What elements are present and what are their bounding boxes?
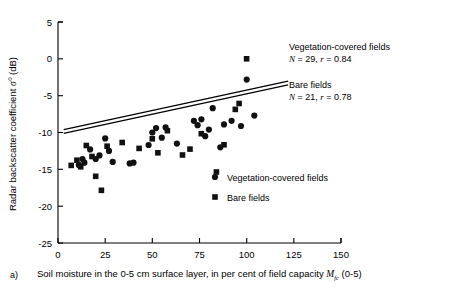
data-point-circle	[159, 135, 165, 141]
y-axis-title-after: (dB)	[7, 57, 18, 78]
data-point-square	[150, 136, 156, 142]
annotation-bare-n-value: = 21,	[295, 92, 320, 102]
legend-marker-square	[212, 194, 218, 200]
data-point-square	[187, 146, 193, 152]
annotation-bare-line2: N = 21, r = 0.78	[288, 92, 352, 102]
series-vegetation-covered-points	[76, 77, 258, 168]
annotation-bare: Bare fields N = 21, r = 0.78	[288, 80, 352, 102]
y-ticks: 5 0 -5 -10 -15 -20 -25	[38, 17, 63, 249]
data-point-square	[165, 128, 171, 134]
data-point-square	[236, 101, 242, 107]
data-point-square	[244, 56, 250, 62]
fit-line-vegetation	[64, 81, 288, 130]
y-ticklabel-0: 5	[47, 17, 52, 28]
legend-marker-circle	[212, 174, 218, 180]
data-point-square	[89, 154, 95, 160]
svg-text:Radar backscatter coefficient: Radar backscatter coefficient σ° (dB)	[7, 57, 18, 211]
data-point-square	[68, 163, 74, 169]
data-point-circle	[174, 141, 180, 147]
data-point-circle	[96, 152, 102, 158]
data-point-square	[78, 164, 84, 170]
scatter-chart: 5 0 -5 -10 -15 -20 -25 0 25 50 75 100 12…	[0, 0, 473, 300]
annotation-vegetation-r-value: = 0.84	[324, 54, 352, 64]
data-point-circle	[206, 127, 212, 133]
data-point-circle	[229, 118, 235, 124]
data-point-circle	[102, 135, 108, 141]
data-point-square	[221, 142, 227, 148]
x-ticklabel-5: 125	[286, 249, 302, 260]
x-axis-title: Soil moisture in the 0-5 cm surface laye…	[37, 268, 362, 281]
x-axis-title-after: (0-5)	[339, 268, 362, 279]
figure-container: 5 0 -5 -10 -15 -20 -25 0 25 50 75 100 12…	[0, 0, 473, 300]
panel-label: a)	[10, 270, 18, 280]
data-point-square	[99, 188, 105, 194]
x-ticklabel-2: 50	[147, 249, 158, 260]
data-point-square	[84, 143, 90, 149]
y-ticklabel-2: -5	[44, 90, 52, 101]
x-ticklabel-3: 75	[194, 249, 205, 260]
data-point-circle	[251, 113, 257, 119]
data-point-circle	[221, 121, 227, 127]
data-point-circle	[153, 125, 159, 131]
y-axis-title: Radar backscatter coefficient σ° (dB)	[7, 57, 18, 211]
data-point-square	[74, 157, 80, 163]
y-ticklabel-5: -20	[38, 201, 52, 212]
data-point-square	[119, 140, 125, 146]
legend-label-bare: Bare fields	[227, 193, 270, 203]
data-point-circle	[130, 160, 136, 166]
y-ticklabel-4: -15	[38, 164, 52, 175]
svg-text:Soil moisture in the 0-5 cm su: Soil moisture in the 0-5 cm surface laye…	[37, 268, 362, 281]
annotation-bare-line1: Bare fields	[289, 80, 332, 90]
annotation-vegetation-line2: N = 29, r = 0.84	[288, 54, 352, 64]
x-ticklabel-0: 0	[55, 249, 60, 260]
data-point-square	[180, 152, 186, 158]
data-point-square	[155, 150, 161, 156]
data-point-circle	[238, 123, 244, 129]
data-point-square	[104, 143, 110, 149]
y-ticklabel-6: -25	[38, 238, 52, 249]
x-ticks: 0 25 50 75 100 125 150	[55, 238, 349, 260]
data-point-circle	[244, 77, 250, 83]
y-axis-title-symbol: σ°	[8, 77, 18, 86]
x-ticklabel-1: 25	[100, 249, 111, 260]
legend-label-vegetation: Vegetation-covered fields	[227, 173, 329, 183]
x-ticklabel-4: 100	[239, 249, 255, 260]
annotation-vegetation-n-value: = 29,	[295, 54, 320, 64]
data-point-square	[136, 146, 142, 152]
y-ticklabel-3: -10	[38, 127, 52, 138]
annotation-vegetation: Vegetation-covered fields N = 29, r = 0.…	[288, 42, 391, 64]
data-point-square	[233, 107, 239, 113]
data-point-circle	[146, 142, 152, 148]
annotation-bare-r-value: = 0.78	[324, 92, 352, 102]
data-point-circle	[110, 159, 116, 165]
data-point-circle	[198, 116, 204, 122]
data-point-square	[93, 174, 99, 180]
annotation-vegetation-line1: Vegetation-covered fields	[289, 42, 391, 52]
y-axis-title-before: Radar backscatter coefficient	[7, 86, 18, 211]
fit-lines	[64, 81, 288, 133]
x-ticklabel-6: 150	[333, 249, 349, 260]
data-point-circle	[210, 105, 216, 111]
x-axis-title-before: Soil moisture in the 0-5 cm surface laye…	[37, 268, 326, 279]
fit-line-bare	[64, 85, 288, 134]
legend: Vegetation-covered fields Bare fields	[212, 173, 329, 203]
y-ticklabel-1: 0	[47, 53, 52, 64]
data-point-circle	[195, 122, 201, 128]
data-point-square	[199, 131, 205, 137]
